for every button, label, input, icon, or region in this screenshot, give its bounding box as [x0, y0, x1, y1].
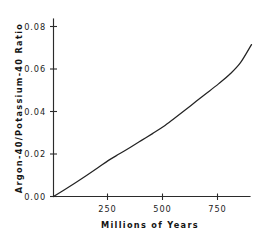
y-tick-label-3: 0.06: [24, 64, 46, 74]
y-tick-labels: 0.08 0.06 0.04 0.02 0.00: [24, 22, 46, 202]
plot-canvas: 0.08 0.06 0.04 0.02 0.00 250 500 750 Mil…: [0, 0, 257, 236]
x-tick-label-2: 750: [208, 204, 226, 214]
x-tick-labels: 250 500 750: [98, 204, 226, 214]
data-series-line: [54, 45, 252, 197]
x-tick-label-0: 250: [98, 204, 116, 214]
chart-figure: 0.08 0.06 0.04 0.02 0.00 250 500 750 Mil…: [0, 0, 257, 236]
y-tick-label-0: 0.00: [24, 192, 46, 202]
x-tick-label-1: 500: [153, 204, 171, 214]
y-axis-title: Argon-40/Potassium-40 Ratio: [14, 23, 24, 193]
y-tick-label-2: 0.04: [24, 107, 46, 117]
x-axis-title: Millions of Years: [101, 220, 199, 230]
y-tick-label-1: 0.02: [24, 149, 46, 159]
y-tick-label-4: 0.08: [24, 22, 46, 32]
